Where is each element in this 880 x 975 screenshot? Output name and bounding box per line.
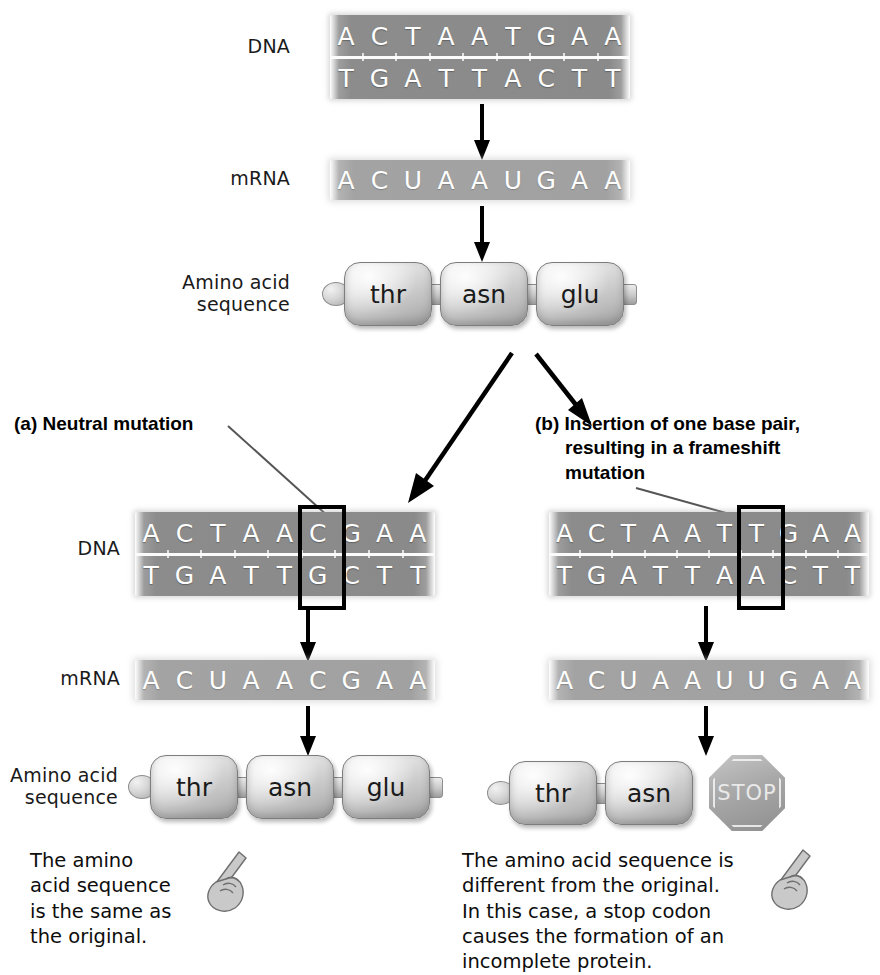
base-mrna-0: A [549,666,581,695]
mrna-sequence-panel-a: ACUAACGAA [135,660,435,700]
base-bottom-1: G [168,561,201,590]
base-top-4: A [463,22,496,51]
base-top-7: A [563,22,596,51]
mrna-sequence-panel-b: ACUAAUUGAA [549,660,869,700]
base-mrna-7: A [563,166,596,195]
dna-strand-bottom: TGATTACTT [330,57,630,99]
base-mrna-8: A [402,666,435,695]
base-mrna-5: U [709,666,741,695]
pointing-hand-icon-panel-a [196,848,256,918]
base-bottom-2: A [397,64,430,93]
label-mrna-original: mRNA [200,168,290,190]
base-top-2: T [202,519,235,548]
amino-acid-chain-original: thrasnglu [322,262,632,326]
mutation-highlight-box-panel-b [737,505,785,610]
base-mrna-1: C [168,666,201,695]
base-mrna-4: A [463,166,496,195]
base-mrna-6: U [741,666,773,695]
base-mrna-5: C [302,666,335,695]
amino-acid-asn: asn [246,755,334,819]
base-bottom-3: T [430,64,463,93]
dna-strand-bottom: TGATTGCTT [135,554,435,596]
base-top-2: T [613,519,645,548]
base-bottom-3: T [235,561,268,590]
label-amino-acid-sequence-panel-a: Amino acid sequence [6,765,118,809]
dna-strand-top: ACTAACGAA [135,512,435,554]
panel-b-heading: (b) Insertion of one base pair,resulting… [535,412,865,485]
arrow-transcription-original [470,104,494,160]
base-mrna-2: U [202,666,235,695]
base-top-3: A [430,22,463,51]
base-mrna-3: A [645,666,677,695]
base-mrna-2: U [397,166,430,195]
base-bottom-8: T [805,561,837,590]
base-bottom-0: T [330,64,363,93]
base-bottom-4: T [677,561,709,590]
base-mrna-4: A [677,666,709,695]
base-mrna-9: A [837,666,869,695]
base-top-8: A [805,519,837,548]
base-top-7: A [368,519,401,548]
arrow-branch-to-panel-a [400,345,520,505]
base-bottom-0: T [549,561,581,590]
dna-sequence-original: ACTAATGAA TGATTACTT [330,15,630,99]
base-top-0: A [135,519,168,548]
dna-strand-top: ACTAATGAA [330,15,630,57]
amino-acid-glu: glu [342,755,430,819]
base-mrna-0: A [135,666,168,695]
dna-strand-bottom: TGATTAACTT [549,554,869,596]
dna-strand-top: ACTAATTGAA [549,512,869,554]
base-bottom-5: A [497,64,530,93]
amino-acid-thr: thr [509,761,597,825]
base-top-4: A [677,519,709,548]
amino-acid-label-line1: Amino acid [178,272,290,294]
base-mrna-8: A [597,166,630,195]
dna-sequence-panel-a: ACTAACGAA TGATTGCTT [135,512,435,596]
amino-acid-label-line2: sequence [6,787,118,809]
base-bottom-4: T [268,561,301,590]
base-bottom-7: T [368,561,401,590]
amino-acid-label-line2: sequence [178,294,290,316]
base-bottom-6: C [530,64,563,93]
label-mrna-panel-a: mRNA [30,668,120,690]
base-mrna-7: A [368,666,401,695]
base-mrna-4: A [268,666,301,695]
label-dna-original: DNA [200,36,290,58]
base-mrna-6: G [530,166,563,195]
base-bottom-4: T [463,64,496,93]
base-bottom-8: T [402,561,435,590]
base-bottom-1: G [363,64,396,93]
base-mrna-1: C [363,166,396,195]
base-mrna-6: G [335,666,368,695]
base-top-5: T [497,22,530,51]
amino-acid-chain-panel-a: thrasnglu [128,755,438,819]
caption-a-line-4: the original. [30,924,245,949]
base-top-2: T [397,22,430,51]
arrow-transcription-panel-a [296,606,320,662]
base-top-6: G [530,22,563,51]
base-top-1: C [168,519,201,548]
stop-codon-sign: STOP [709,755,785,831]
base-top-8: A [597,22,630,51]
base-mrna-3: A [235,666,268,695]
base-top-1: C [581,519,613,548]
base-bottom-0: T [135,561,168,590]
panel-b-heading-line-2: resulting in a frameshift [535,436,865,460]
base-top-3: A [645,519,677,548]
base-bottom-7: T [563,64,596,93]
mrna-sequence-original: ACUAAUGAA [330,160,630,200]
amino-acid-thr: thr [150,755,238,819]
base-mrna-5: U [497,166,530,195]
panel-b-heading-line-1: (b) Insertion of one base pair, [535,412,865,436]
base-top-3: A [235,519,268,548]
amino-acid-thr: thr [344,262,432,326]
amino-acid-chain-panel-b: thrasnSTOP [487,755,785,831]
base-bottom-9: T [837,561,869,590]
base-top-1: C [363,22,396,51]
base-mrna-7: G [773,666,805,695]
label-dna-panel-a: DNA [30,538,120,560]
base-bottom-8: T [597,64,630,93]
base-bottom-1: G [581,561,613,590]
base-top-0: A [549,519,581,548]
